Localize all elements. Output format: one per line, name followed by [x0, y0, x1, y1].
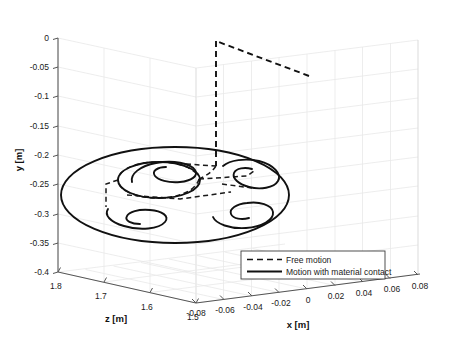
legend[interactable]: Free motion Motion with material contact: [241, 251, 392, 279]
x-tick-label-4: 0: [306, 295, 311, 305]
x-tick-label-2: -0.04: [243, 302, 263, 312]
legend-label-free-motion: Free motion: [286, 255, 332, 265]
y-axis-title: y [m]: [13, 149, 24, 172]
plot-canvas: 0 -0.05 -0.1 -0.15 -0.2 -0.25 -0.3 -0.35…: [0, 0, 451, 356]
x-axis-title: x [m]: [287, 319, 310, 330]
z-tick-label-1: 1.7: [95, 291, 107, 301]
x-tick-label-3: -0.02: [271, 298, 291, 308]
z-axis-ticks: 1.8 1.7 1.6 1.5 z [m]: [50, 268, 199, 325]
z-tick-label-2: 1.6: [141, 302, 153, 312]
y-tick-label-0: 0: [44, 33, 49, 43]
x-tick-label-6: 0.04: [356, 288, 373, 298]
z-tick-label-0: 1.8: [50, 281, 62, 291]
series-free-motion: [106, 41, 309, 207]
figure-3d-toolpath-plot: 0 -0.05 -0.1 -0.15 -0.2 -0.25 -0.3 -0.35…: [0, 0, 451, 356]
y-tick-label-2: -0.1: [34, 91, 49, 101]
y-tick-label-4: -0.2: [34, 150, 49, 160]
y-tick-label-1: -0.05: [30, 62, 50, 72]
y-tick-label-5: -0.25: [30, 179, 50, 189]
y-tick-label-8: -0.4: [34, 267, 49, 277]
series-motion-with-contact: [61, 147, 289, 243]
y-tick-label-6: -0.3: [34, 209, 49, 219]
z-axis-title: z [m]: [105, 313, 127, 324]
y-tick-label-7: -0.35: [30, 238, 50, 248]
x-tick-label-5: 0.02: [328, 291, 345, 301]
legend-label-contact-motion: Motion with material contact: [286, 267, 392, 277]
y-axis-ticks: 0 -0.05 -0.1 -0.15 -0.2 -0.25 -0.3 -0.35…: [13, 33, 58, 277]
x-tick-label-0: -0.08: [186, 308, 206, 318]
x-tick-label-1: -0.06: [215, 305, 235, 315]
x-tick-label-7: 0.06: [384, 284, 401, 294]
x-tick-label-8: 0.08: [412, 281, 429, 291]
y-tick-label-3: -0.15: [30, 121, 50, 131]
